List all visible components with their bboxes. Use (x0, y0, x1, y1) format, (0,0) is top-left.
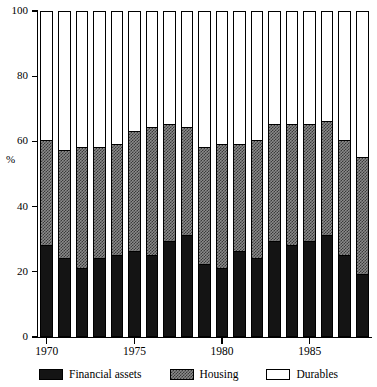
y-tick-label-0: 0 (23, 331, 29, 342)
legend-label: Financial assets (69, 368, 142, 380)
bar-1974 (111, 11, 124, 337)
segment-financial-assets-1987 (339, 255, 350, 337)
y-tick-label-40: 40 (17, 201, 28, 212)
plot-area (38, 11, 371, 337)
segment-financial-assets-1976 (147, 255, 158, 337)
black-solid-swatch (39, 369, 63, 380)
segment-financial-assets-1983 (269, 241, 280, 336)
bar-1986 (321, 11, 334, 337)
bar-1980 (216, 11, 229, 337)
segment-financial-assets-1974 (112, 255, 123, 337)
bar-1981 (233, 11, 246, 337)
x-tick-label-1980: 1980 (211, 345, 234, 357)
bar-1985 (303, 11, 316, 337)
bar-1973 (93, 11, 106, 337)
y-tick-label-20: 20 (17, 266, 28, 277)
segment-financial-assets-1984 (287, 245, 298, 336)
bar-1979 (198, 11, 211, 337)
segment-financial-assets-1972 (77, 268, 88, 336)
legend-label: Durables (296, 368, 338, 380)
stacked-bar-chart: % 020406080100 1970197519801985 Financia… (0, 0, 377, 387)
y-tick-label-100: 100 (12, 5, 29, 16)
bar-1976 (146, 11, 159, 337)
y-axis-title: % (6, 154, 15, 165)
segment-financial-assets-1986 (322, 235, 333, 336)
legend-label: Housing (200, 368, 239, 380)
segment-financial-assets-1985 (304, 241, 315, 336)
bar-1987 (338, 11, 351, 337)
bar-1982 (251, 11, 264, 337)
x-tick-label-1970: 1970 (35, 345, 58, 357)
gray-checkered-swatch (170, 369, 194, 380)
x-axis-line (37, 337, 372, 338)
segment-financial-assets-1970 (41, 245, 52, 336)
bar-1971 (58, 11, 71, 337)
x-tick-1985 (309, 338, 310, 344)
bar-1978 (181, 11, 194, 337)
segment-financial-assets-1982 (252, 258, 263, 336)
segment-financial-assets-1988 (357, 274, 368, 336)
x-tick-1975 (134, 338, 135, 344)
bar-1984 (286, 11, 299, 337)
bar-1972 (76, 11, 89, 337)
chart-legend: Financial assetsHousingDurables (0, 364, 377, 384)
segment-financial-assets-1971 (59, 258, 70, 336)
bar-1988 (356, 11, 369, 337)
segment-financial-assets-1979 (199, 264, 210, 336)
x-tick-1980 (221, 338, 222, 344)
segment-financial-assets-1981 (234, 251, 245, 336)
segment-financial-assets-1977 (164, 241, 175, 336)
x-tick-1970 (46, 338, 47, 344)
segment-financial-assets-1978 (182, 235, 193, 336)
segment-financial-assets-1980 (217, 268, 228, 336)
white-outline-swatch (266, 369, 290, 380)
legend-item-durables: Durables (266, 368, 338, 380)
segment-financial-assets-1975 (129, 251, 140, 336)
y-tick-label-60: 60 (17, 135, 28, 146)
bar-1977 (163, 11, 176, 337)
legend-item-financial-assets: Financial assets (39, 368, 142, 380)
bar-1983 (268, 11, 281, 337)
legend-item-housing: Housing (170, 368, 239, 380)
y-tick-label-80: 80 (17, 70, 28, 81)
bar-1970 (40, 11, 53, 337)
x-tick-label-1975: 1975 (123, 345, 146, 357)
bar-1975 (128, 11, 141, 337)
segment-financial-assets-1973 (94, 258, 105, 336)
x-tick-label-1985: 1985 (298, 345, 321, 357)
